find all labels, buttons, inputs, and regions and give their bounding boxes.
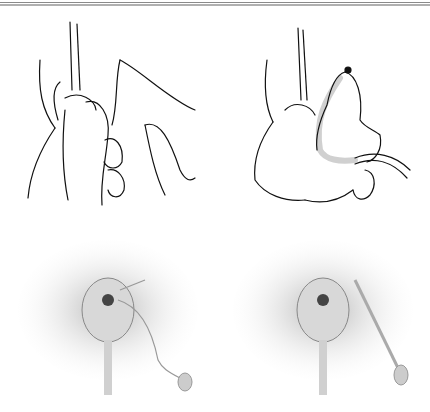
line-drawing-hand-instrument-icon xyxy=(215,10,430,210)
shaded-anatomy-straight-device-icon xyxy=(215,210,430,412)
panel-top-right xyxy=(215,10,430,210)
line-drawing-hands-icon xyxy=(0,10,215,210)
panel-bottom-right xyxy=(215,210,430,412)
panel-top-left xyxy=(0,10,215,210)
shaded-anatomy-device-icon xyxy=(0,210,215,412)
panel-bottom-left xyxy=(0,210,215,412)
top-rule-secondary xyxy=(0,4,430,6)
top-rule xyxy=(0,2,430,3)
